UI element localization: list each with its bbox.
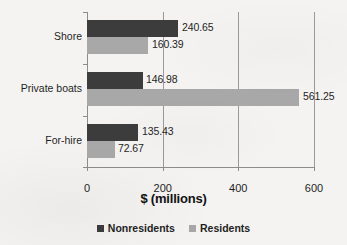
bar-shore-nonresidents[interactable] — [87, 20, 178, 37]
x-axis-line — [87, 167, 315, 168]
legend-label-nonresidents: Nonresidents — [108, 222, 175, 234]
value-label-shore-nonresidents: 240.65 — [182, 21, 214, 33]
y-tick-top — [83, 12, 87, 13]
legend-item-nonresidents[interactable]: Nonresidents — [97, 222, 175, 234]
bar-chart: Shore Private boats For-hire 240.65 160.… — [0, 0, 347, 245]
value-label-for-hire-nonresidents: 135.43 — [142, 125, 174, 137]
legend-item-residents[interactable]: Residents — [189, 222, 250, 234]
bar-private-boats-nonresidents[interactable] — [87, 72, 143, 89]
value-label-shore-residents: 160.39 — [152, 38, 184, 50]
value-label-private-boats-residents: 561.25 — [303, 90, 335, 102]
x-axis-title: $ (millions) — [0, 191, 347, 206]
value-label-for-hire-residents: 72.67 — [118, 142, 144, 154]
x-tick-200 — [163, 167, 164, 171]
category-label-for-hire: For-hire — [0, 134, 82, 146]
bar-shore-residents[interactable] — [87, 37, 148, 54]
bar-for-hire-nonresidents[interactable] — [87, 124, 138, 141]
bar-private-boats-residents[interactable] — [87, 89, 299, 106]
legend-label-residents: Residents — [200, 222, 250, 234]
chart-legend: Nonresidents Residents — [0, 222, 347, 234]
y-tick-2 — [83, 116, 87, 117]
legend-swatch-residents-icon — [189, 225, 196, 232]
legend-swatch-nonresidents-icon — [97, 225, 104, 232]
category-label-shore: Shore — [0, 30, 82, 42]
bar-for-hire-residents[interactable] — [87, 141, 115, 158]
plot-area: 240.65 160.39 146.98 561.25 135.43 72.67… — [87, 12, 314, 167]
category-label-private-boats: Private boats — [0, 82, 82, 94]
x-tick-0 — [87, 167, 88, 171]
y-tick-1 — [83, 64, 87, 65]
x-tick-400 — [238, 167, 239, 171]
x-tick-600 — [314, 167, 315, 171]
value-label-private-boats-nonresidents: 146.98 — [146, 73, 178, 85]
